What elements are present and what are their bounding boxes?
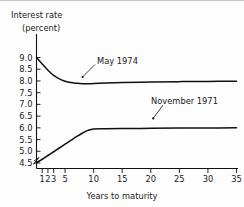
x-tick-label: 2 xyxy=(45,174,50,184)
x-tick-label: 30 xyxy=(203,174,214,184)
y-tick-label: 6.0 xyxy=(19,123,32,133)
y-tick-label: 7.0 xyxy=(19,99,32,109)
y-tick-label: 8.0 xyxy=(19,76,32,86)
y-axis-title-line2: (percent) xyxy=(22,23,60,33)
x-tick-label: 10 xyxy=(88,174,99,184)
x-tick-label: 3 xyxy=(51,174,56,184)
series-label-may-1974: May 1974 xyxy=(97,56,138,66)
top-rule-divider xyxy=(0,0,244,1)
series-line-november-1971 xyxy=(37,128,237,163)
y-axis-ticks: 4.55.05.56.06.57.07.58.08.59.0 xyxy=(19,53,40,169)
november-1971-leader-line xyxy=(154,105,164,118)
y-tick-label: 8.5 xyxy=(19,64,32,74)
x-tick-label: 35 xyxy=(231,174,242,184)
x-axis-ticks: 1235101520253035 xyxy=(40,169,242,185)
y-tick-label: 4.5 xyxy=(19,158,32,168)
yield-curve-chart: Interest rate (percent) 4.55.05.56.06.57… xyxy=(0,0,244,207)
november-1971-pointer-dot xyxy=(152,117,154,119)
may-1974-leader-line xyxy=(83,65,95,77)
x-axis-title: Years to maturity xyxy=(85,191,157,201)
x-tick-label: 20 xyxy=(146,174,157,184)
x-tick-label: 25 xyxy=(174,174,185,184)
series-label-november-1971: November 1971 xyxy=(151,96,218,106)
y-axis-title-line1: Interest rate xyxy=(11,10,62,20)
may-1974-pointer-dot xyxy=(82,76,84,78)
y-tick-label: 5.5 xyxy=(19,135,32,145)
y-tick-label: 9.0 xyxy=(19,53,32,63)
x-tick-label: 1 xyxy=(40,174,45,184)
y-tick-label: 5.0 xyxy=(19,146,32,156)
chart-figure: Interest rate (percent) 4.55.05.56.06.57… xyxy=(0,0,244,207)
y-tick-label: 7.5 xyxy=(19,88,32,98)
y-tick-label: 6.5 xyxy=(19,111,32,121)
x-tick-label: 15 xyxy=(117,174,128,184)
x-tick-label: 5 xyxy=(62,174,67,184)
